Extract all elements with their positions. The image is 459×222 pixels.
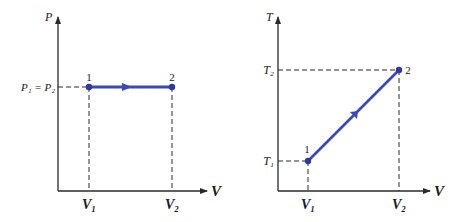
point-1-label: 1 — [86, 71, 92, 83]
state-point-2-right — [396, 67, 402, 73]
direction-arrow-icon — [122, 83, 132, 91]
t2-label: T₂ — [263, 63, 274, 77]
p1-equals-p2-label: P₁ = P₂ — [20, 81, 55, 93]
v2-label-right: V₂ — [392, 197, 406, 212]
pv-diagram: P V P₁ = P₂ V₁ V₂ 1 2 — [20, 10, 223, 212]
thermo-diagrams: P V P₁ = P₂ V₁ V₂ 1 2 T V T₂ T₁ V₁ V₂ 1 … — [0, 0, 459, 222]
v1-label: V₁ — [82, 197, 96, 212]
v-axis-label: V — [211, 183, 223, 199]
state-point-1-right — [305, 158, 311, 164]
point-2-label-right: 2 — [405, 64, 411, 76]
point-2-label: 2 — [169, 71, 175, 83]
v-axis-label-right: V — [434, 183, 446, 199]
state-point-1 — [86, 84, 92, 90]
t-axis-label: T — [266, 10, 274, 24]
point-1-label-right: 1 — [304, 143, 310, 155]
t1-label: T₁ — [263, 154, 274, 168]
tv-diagram: T V T₂ T₁ V₁ V₂ 1 2 — [263, 10, 446, 212]
state-point-2 — [169, 84, 175, 90]
p-axis-label: P — [44, 10, 53, 24]
v2-label: V₂ — [165, 197, 179, 212]
v1-label-right: V₁ — [301, 197, 315, 212]
